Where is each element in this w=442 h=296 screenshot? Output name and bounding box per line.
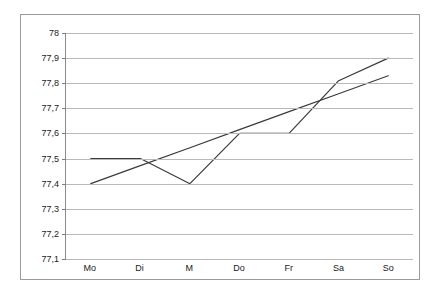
series-line-data-series	[91, 58, 388, 184]
gridline	[66, 108, 413, 109]
y-tickmark	[62, 133, 66, 134]
gridline	[66, 83, 413, 84]
y-tick-label: 77,3	[41, 204, 59, 214]
y-tick-label: 77,1	[41, 254, 59, 264]
x-tick-label: M	[186, 263, 194, 273]
gridline	[66, 234, 413, 235]
gridline	[66, 159, 413, 160]
y-tick-label: 77,8	[41, 78, 59, 88]
x-tick-label: Di	[135, 263, 144, 273]
x-tick-label: Sa	[333, 263, 344, 273]
x-tick-label: Do	[233, 263, 245, 273]
y-tickmark	[62, 83, 66, 84]
y-tick-label: 77,2	[41, 229, 59, 239]
gridline	[66, 33, 413, 34]
y-tickmark	[62, 259, 66, 260]
gridline	[66, 209, 413, 210]
y-tickmark	[62, 209, 66, 210]
y-tick-label: 77,5	[41, 154, 59, 164]
x-axis: MoDiMDoFrSaSo	[65, 263, 413, 279]
y-tickmark	[62, 234, 66, 235]
y-axis: 7877,977,877,777,677,577,477,377,277,1	[21, 15, 65, 281]
gridline	[66, 58, 413, 59]
y-tick-label: 77,6	[41, 128, 59, 138]
y-tick-label: 77,4	[41, 179, 59, 189]
x-tick-label: So	[383, 263, 394, 273]
series-line-trend-line	[91, 76, 388, 184]
plot-area	[65, 33, 413, 259]
y-tickmark	[62, 108, 66, 109]
gridline	[66, 133, 413, 134]
y-tickmark	[62, 159, 66, 160]
y-tickmark	[62, 33, 66, 34]
y-tickmark	[62, 184, 66, 185]
chart-frame: 7877,977,877,777,677,577,477,377,277,1 M…	[20, 14, 420, 280]
chart-plot-wrapper: 7877,977,877,777,677,577,477,377,277,1 M…	[21, 15, 421, 281]
x-tick-label: Mo	[84, 263, 97, 273]
y-tick-label: 78	[49, 28, 59, 38]
y-tick-label: 77,9	[41, 53, 59, 63]
series-layer	[66, 33, 413, 259]
x-tick-label: Fr	[284, 263, 293, 273]
gridline	[66, 184, 413, 185]
gridline	[66, 259, 413, 260]
y-tick-label: 77,7	[41, 103, 59, 113]
y-tickmark	[62, 58, 66, 59]
